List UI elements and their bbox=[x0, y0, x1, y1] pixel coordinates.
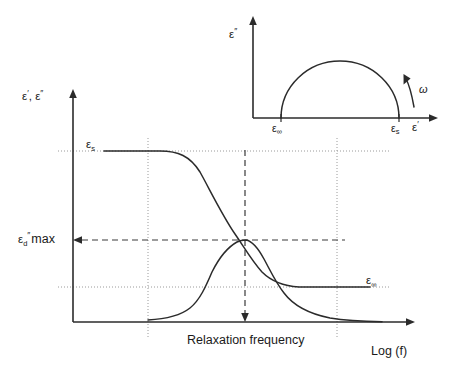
dielectric-relaxation-figure: ε″ ε′ ε∞ εs ω bbox=[0, 0, 450, 368]
loss-max-arrowhead bbox=[73, 236, 82, 244]
main-plot: ε′, ε″ εs ε∞ εd″max Relaxation frequency… bbox=[18, 88, 415, 358]
main-y-axis-arrowhead bbox=[69, 89, 77, 98]
relaxation-frequency-arrowhead bbox=[241, 313, 249, 322]
inset-cole-cole-plot: ε″ ε′ ε∞ εs ω bbox=[229, 16, 438, 136]
curve-eps-double-prime bbox=[148, 240, 382, 322]
figure-canvas: ε″ ε′ ε∞ εs ω bbox=[0, 0, 450, 368]
inset-omega-arrowhead bbox=[404, 74, 411, 85]
inset-x-axis-label: ε′ bbox=[412, 119, 419, 133]
inset-label-eps-s: εs bbox=[391, 122, 400, 136]
inset-omega-label: ω bbox=[419, 83, 428, 95]
label-relaxation-frequency: Relaxation frequency bbox=[187, 333, 305, 347]
inset-semicircle-curve bbox=[281, 61, 399, 118]
curve-eps-prime bbox=[104, 151, 370, 287]
label-eps-d-double-prime-max: εd″max bbox=[18, 230, 56, 248]
main-x-axis-label: Log (f) bbox=[371, 344, 407, 358]
label-eps-s: εs bbox=[86, 138, 95, 153]
inset-x-axis-arrowhead bbox=[429, 114, 438, 122]
main-y-axis-label: ε′, ε″ bbox=[22, 88, 43, 102]
inset-y-axis-arrowhead bbox=[249, 16, 257, 25]
main-x-axis-arrowhead bbox=[406, 318, 415, 326]
inset-omega-arc bbox=[406, 79, 414, 107]
inset-y-axis-label: ε″ bbox=[229, 26, 237, 40]
inset-label-eps-infinity: ε∞ bbox=[272, 122, 282, 136]
